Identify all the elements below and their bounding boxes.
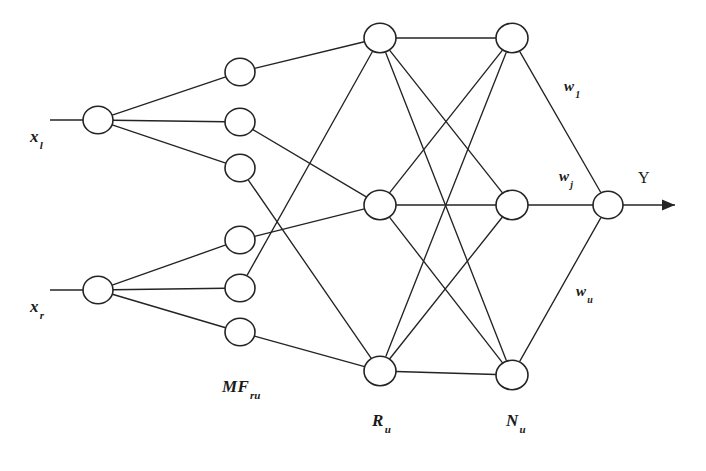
- label-weight-j: wj: [559, 168, 572, 187]
- edge-r3-to-n3: [396, 371, 496, 374]
- label-weight-j-sub: j: [570, 179, 573, 190]
- edge-mf5-to-r1: [247, 52, 372, 275]
- label-rule-layer-sub: u: [385, 423, 391, 435]
- label-input-1-base: x: [30, 127, 39, 146]
- label-mf-layer-base: MF: [222, 377, 249, 396]
- label-input-2-base: x: [30, 297, 39, 316]
- node-n3[interactable]: [496, 360, 528, 389]
- label-norm-layer: Nu: [506, 412, 525, 432]
- label-output: Y: [638, 170, 650, 189]
- label-weight-u: wu: [576, 283, 592, 302]
- node-n1[interactable]: [496, 23, 528, 52]
- edge-mf3-to-r3: [249, 180, 371, 357]
- label-weight-u-base: w: [576, 283, 586, 299]
- label-mf-layer: MFru: [222, 378, 259, 398]
- label-input-1: xl: [30, 128, 42, 148]
- node-mf5[interactable]: [225, 274, 255, 302]
- node-r1[interactable]: [364, 23, 396, 52]
- label-input-2: xr: [30, 298, 43, 318]
- node-mf6[interactable]: [225, 318, 255, 346]
- edge-mf6-to-r3: [254, 336, 364, 367]
- label-input-2-sub: r: [40, 309, 44, 321]
- network-canvas: [0, 0, 706, 471]
- output-arrow-icon: [662, 200, 675, 211]
- node-mf4[interactable]: [225, 226, 255, 254]
- node-mf2[interactable]: [225, 108, 255, 136]
- node-mf1[interactable]: [225, 58, 255, 86]
- node-r3[interactable]: [364, 356, 396, 385]
- label-rule-layer-base: R: [372, 411, 384, 430]
- edge-xr-to-mf6: [112, 294, 225, 328]
- node-x1[interactable]: [83, 106, 113, 134]
- edge-mf1-to-r1: [255, 42, 365, 69]
- label-mf-layer-sub: ru: [250, 389, 260, 401]
- edge-xr-to-mf4: [112, 245, 226, 285]
- edge-x1-to-mf1: [112, 77, 226, 115]
- node-y[interactable]: [593, 191, 623, 219]
- node-xr[interactable]: [83, 276, 113, 304]
- node-r2[interactable]: [364, 190, 396, 219]
- label-input-1-sub: l: [40, 139, 43, 151]
- edge-x1-to-mf3: [112, 125, 226, 163]
- label-weight-1-base: w: [564, 78, 574, 94]
- edge-xr-to-mf5: [113, 288, 225, 290]
- label-weight-j-base: w: [559, 168, 569, 184]
- edge-x1-to-mf2: [113, 120, 225, 122]
- label-weight-1-sub: 1: [575, 89, 580, 100]
- node-n2[interactable]: [496, 190, 528, 219]
- label-norm-layer-sub: u: [520, 423, 526, 435]
- network-diagram: xl xr MFru Ru Nu w1 wj wu Y: [0, 0, 706, 471]
- label-weight-1: w1: [564, 78, 579, 97]
- label-norm-layer-base: N: [506, 411, 519, 430]
- nodes-group: [83, 23, 623, 389]
- node-mf3[interactable]: [225, 154, 255, 182]
- label-rule-layer: Ru: [372, 412, 390, 432]
- label-weight-u-sub: u: [587, 294, 593, 305]
- label-output-base: Y: [638, 169, 650, 186]
